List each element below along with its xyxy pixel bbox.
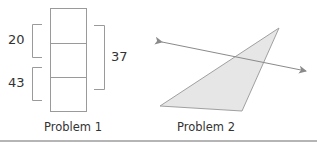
value-20: 20	[8, 32, 25, 47]
bottom-divider	[0, 140, 317, 142]
value-37: 37	[111, 49, 128, 64]
problem1-column	[51, 9, 87, 112]
problem2-triangle	[160, 28, 279, 111]
value-43: 43	[8, 75, 25, 90]
problem1-label: Problem 1	[44, 120, 102, 134]
problem2-label: Problem 2	[177, 120, 235, 134]
problem1-left-brackets	[33, 25, 43, 101]
diagram-canvas: 20 43 37 Problem 1 Problem 2	[0, 0, 317, 143]
problem1-right-bracket	[94, 26, 105, 90]
